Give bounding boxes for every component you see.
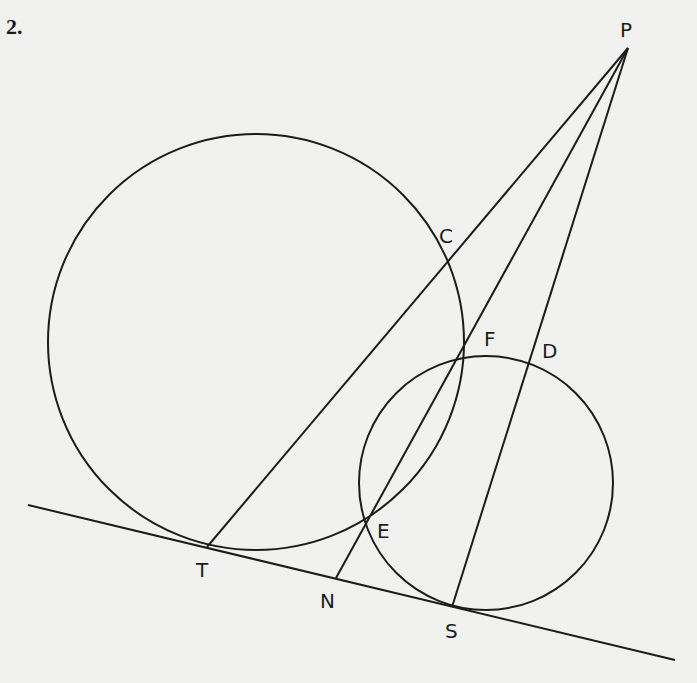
segment-PN	[336, 48, 628, 578]
segment-PS	[452, 48, 628, 607]
geometry-figure: 2. P C F D E T N S	[0, 0, 697, 683]
diagram-canvas	[0, 0, 697, 683]
small-circle	[359, 356, 613, 610]
label-T: T	[196, 560, 208, 580]
label-E: E	[377, 521, 390, 541]
label-C: C	[439, 226, 453, 246]
label-F: F	[484, 329, 496, 349]
label-N: N	[320, 591, 335, 611]
label-S: S	[445, 621, 458, 641]
tangent-line	[28, 505, 675, 660]
label-P: P	[620, 20, 632, 40]
label-D: D	[542, 341, 557, 361]
